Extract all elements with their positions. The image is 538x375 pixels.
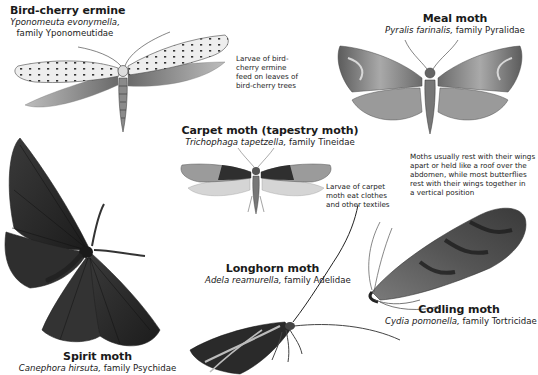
common-name: Codling moth xyxy=(385,303,533,316)
scientific-name: Cydia pomonella, family Tortricidae xyxy=(385,316,533,327)
label-codling-moth: Codling moth Cydia pomonella, family Tor… xyxy=(385,303,533,327)
